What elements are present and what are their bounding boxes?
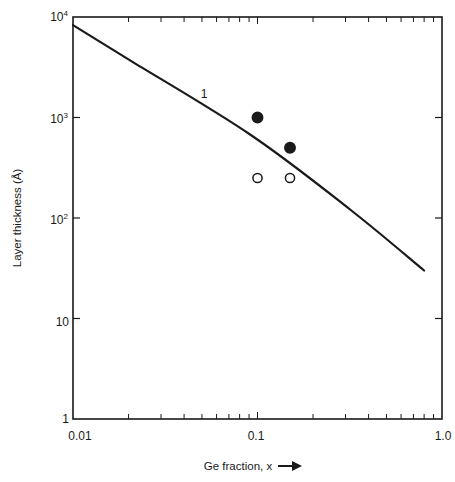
x-tick-label-0.01: 0.01 [68,429,92,443]
open-circle-marker [253,173,262,182]
chart: 104 103 102 10 1 0.01 0.1 1.0 Ge fractio… [0,0,455,482]
x-axis-ticks [129,17,434,419]
y-axis-ticks [73,118,442,319]
curve-1-label: 1 [201,87,208,101]
data-markers [252,112,295,182]
x-axis-title: Ge fraction, x [204,460,273,472]
y-tick-label-10000: 104 [50,9,68,24]
open-circle-marker [285,173,294,182]
filled-circle-marker [252,112,262,122]
y-tick-label-10: 10 [56,315,70,329]
arrow-right-icon [278,461,302,471]
filled-circle-marker [285,143,295,153]
plot-frame [73,17,442,419]
y-tick-label-1: 1 [62,412,69,426]
y-axis-title: Layer thickness (Å) [11,169,23,268]
y-tick-label-1000: 103 [50,111,68,126]
x-tick-label-0.1: 0.1 [248,429,265,443]
y-tick-label-100: 102 [50,212,68,227]
curve-1-line [73,25,424,270]
x-tick-label-1.0: 1.0 [435,429,452,443]
